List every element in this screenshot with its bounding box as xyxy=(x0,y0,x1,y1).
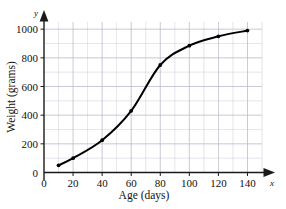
x-tick-label: 60 xyxy=(126,177,138,189)
x-tick-label: 0 xyxy=(41,177,47,189)
data-point-markers xyxy=(57,29,250,168)
axis-ticks xyxy=(41,29,248,176)
data-point-marker xyxy=(187,44,191,48)
x-axis-variable-label: x xyxy=(269,178,274,188)
y-tick-label: 600 xyxy=(22,81,39,93)
data-curve xyxy=(59,31,248,166)
x-axis-title: Age (days) xyxy=(119,189,170,202)
x-tick-label: 20 xyxy=(68,177,80,189)
x-tick-labels: 020406080100120140 xyxy=(41,177,256,189)
data-point-marker xyxy=(57,163,61,167)
data-point-marker xyxy=(246,29,250,33)
y-axis-variable-label: y xyxy=(33,8,38,18)
data-point-marker xyxy=(100,138,104,142)
y-tick-label: 0 xyxy=(33,167,39,179)
chart-figure: 020406080100120140 02004006008001000 y x… xyxy=(0,0,286,209)
x-tick-label: 100 xyxy=(181,177,198,189)
y-tick-label: 200 xyxy=(22,138,39,150)
y-tick-labels: 02004006008001000 xyxy=(16,23,39,178)
x-tick-label: 40 xyxy=(97,177,109,189)
y-tick-label: 800 xyxy=(22,52,39,64)
x-tick-label: 120 xyxy=(210,177,227,189)
grid-minor xyxy=(44,22,262,173)
data-point-marker xyxy=(129,109,133,113)
axis-lines xyxy=(40,10,275,180)
x-tick-label: 80 xyxy=(155,177,167,189)
data-point-marker xyxy=(71,156,75,160)
x-axis-arrow-icon xyxy=(264,168,276,177)
grid-major xyxy=(44,22,262,173)
y-axis-title: Weight (grams) xyxy=(5,61,18,133)
y-tick-label: 400 xyxy=(22,109,39,121)
y-axis-arrow-icon xyxy=(40,10,49,22)
data-point-marker xyxy=(158,63,162,67)
y-tick-label: 1000 xyxy=(16,23,39,35)
growth-curve-chart: 020406080100120140 02004006008001000 y x… xyxy=(0,0,286,209)
data-point-marker xyxy=(217,34,221,38)
x-tick-label: 140 xyxy=(239,177,256,189)
